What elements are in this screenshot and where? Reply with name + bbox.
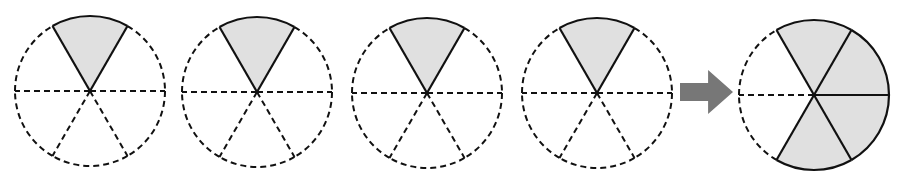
dashed-arc xyxy=(295,27,333,92)
shaded-sector xyxy=(220,17,295,92)
dashed-radius xyxy=(560,93,598,158)
dashed-radius xyxy=(427,93,465,158)
diagram-canvas xyxy=(0,0,899,180)
dashed-arc xyxy=(465,28,503,93)
dashed-arc xyxy=(522,28,560,93)
dashed-arc xyxy=(739,95,777,160)
dashed-arc xyxy=(182,27,220,92)
dashed-arc xyxy=(560,158,635,168)
dashed-radius xyxy=(257,92,295,157)
dashed-arc xyxy=(390,158,465,168)
dashed-radius xyxy=(597,93,635,158)
dashed-arc xyxy=(739,30,777,95)
shaded-sector xyxy=(390,18,465,93)
circle-3 xyxy=(352,18,502,168)
fraction-diagram xyxy=(0,0,899,180)
circle-4 xyxy=(522,18,672,168)
arrow-right-icon xyxy=(680,70,733,114)
circle-2 xyxy=(182,17,332,167)
result-circle xyxy=(739,20,889,170)
shaded-sector xyxy=(53,16,128,91)
dashed-arc xyxy=(295,92,333,157)
dashed-arc xyxy=(128,26,166,91)
circle-1 xyxy=(15,16,165,166)
dashed-arc xyxy=(635,28,673,93)
dashed-arc xyxy=(53,156,128,166)
dashed-arc xyxy=(15,91,53,156)
shaded-sector xyxy=(560,18,635,93)
dashed-arc xyxy=(352,93,390,158)
dashed-arc xyxy=(635,93,673,158)
dashed-arc xyxy=(15,26,53,91)
dashed-arc xyxy=(182,92,220,157)
dashed-arc xyxy=(220,157,295,167)
dashed-arc xyxy=(128,91,166,156)
dashed-radius xyxy=(220,92,258,157)
dashed-radius xyxy=(390,93,428,158)
dashed-radius xyxy=(53,91,91,156)
dashed-arc xyxy=(465,93,503,158)
dashed-radius xyxy=(90,91,128,156)
dashed-arc xyxy=(522,93,560,158)
dashed-arc xyxy=(352,28,390,93)
